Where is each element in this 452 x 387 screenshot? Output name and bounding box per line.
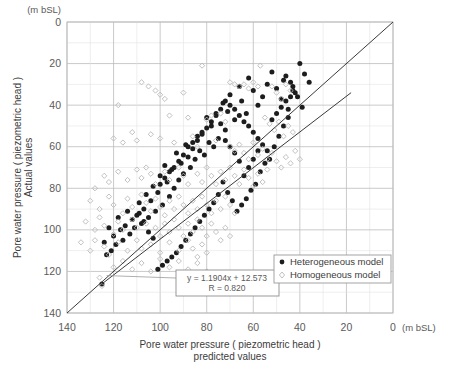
data-point-homogeneous	[246, 175, 251, 180]
data-point-homogeneous	[281, 134, 286, 139]
data-point-homogeneous	[162, 213, 167, 218]
data-point-heterogeneous	[295, 94, 300, 99]
x-axis-title: Pore water pressure ( piezometric head )…	[139, 339, 320, 362]
data-point-heterogeneous	[200, 130, 205, 135]
data-point-homogeneous	[176, 258, 181, 263]
data-point-heterogeneous	[225, 109, 230, 114]
x-axis-unit: (m bSL)	[402, 322, 436, 333]
data-point-homogeneous	[232, 173, 237, 178]
data-point-homogeneous	[120, 140, 125, 145]
legend-label: Homogeneous model	[290, 269, 380, 280]
y-tick-label: 80	[49, 182, 61, 194]
data-point-homogeneous	[167, 240, 172, 245]
data-point-heterogeneous	[228, 92, 233, 97]
data-point-heterogeneous	[193, 157, 198, 162]
data-point-homogeneous	[139, 175, 144, 180]
data-point-homogeneous	[153, 88, 158, 93]
data-point-homogeneous	[213, 182, 218, 187]
data-point-homogeneous	[144, 200, 149, 205]
data-point-heterogeneous	[237, 113, 242, 118]
data-point-homogeneous	[185, 115, 190, 120]
data-point-heterogeneous	[158, 173, 163, 178]
data-point-homogeneous	[162, 169, 167, 174]
legend: Heterogeneous modelHomogeneous model	[274, 255, 391, 283]
y-tick-label: 60	[49, 140, 61, 152]
data-point-heterogeneous	[162, 163, 167, 168]
data-point-homogeneous	[185, 182, 190, 187]
data-point-homogeneous	[246, 157, 251, 162]
data-point-heterogeneous	[176, 177, 181, 182]
data-point-heterogeneous	[174, 150, 179, 155]
data-point-heterogeneous	[223, 138, 228, 143]
data-point-heterogeneous	[186, 144, 191, 149]
data-point-heterogeneous	[239, 98, 244, 103]
data-point-homogeneous	[125, 196, 130, 201]
data-point-homogeneous	[148, 132, 153, 137]
data-point-heterogeneous	[211, 144, 216, 149]
x-tick-label: 60	[247, 321, 259, 333]
data-point-heterogeneous	[160, 263, 165, 268]
data-point-heterogeneous	[302, 71, 307, 76]
data-point-heterogeneous	[283, 74, 288, 79]
data-point-heterogeneous	[137, 200, 142, 205]
chart-canvas: 140120100806040200(m bSL)020406080100120…	[0, 0, 452, 387]
x-tick-label: 40	[294, 321, 306, 333]
data-point-heterogeneous	[239, 202, 244, 207]
data-point-homogeneous	[195, 261, 200, 266]
legend-marker-heterogeneous	[280, 260, 285, 265]
data-point-heterogeneous	[130, 217, 135, 222]
data-point-homogeneous	[120, 211, 125, 216]
data-point-heterogeneous	[190, 140, 195, 145]
data-point-heterogeneous	[176, 159, 181, 164]
data-point-homogeneous	[209, 173, 214, 178]
y-tick-label: 0	[55, 16, 61, 28]
data-point-heterogeneous	[260, 94, 265, 99]
data-point-homogeneous	[153, 196, 158, 201]
data-point-homogeneous	[262, 115, 267, 120]
data-point-heterogeneous	[223, 98, 228, 103]
data-point-homogeneous	[185, 211, 190, 216]
data-point-homogeneous	[288, 161, 293, 166]
data-point-heterogeneous	[188, 165, 193, 170]
data-point-heterogeneous	[274, 111, 279, 116]
series-homogeneous	[78, 63, 302, 289]
equation-annotation: y = 1.1904x + 12.573R = 0.820	[176, 270, 279, 296]
data-point-homogeneous	[78, 240, 83, 245]
data-point-homogeneous	[92, 238, 97, 243]
data-point-heterogeneous	[172, 186, 177, 191]
x-axis-ticks: 140120100806040200(m bSL)	[58, 321, 436, 333]
data-point-heterogeneous	[223, 128, 228, 133]
data-point-homogeneous	[102, 173, 107, 178]
data-point-heterogeneous	[146, 215, 151, 220]
data-point-heterogeneous	[146, 229, 151, 234]
data-point-heterogeneous	[246, 76, 251, 81]
series-heterogeneous	[99, 61, 311, 286]
data-point-homogeneous	[83, 219, 88, 224]
data-point-homogeneous	[139, 192, 144, 197]
data-point-homogeneous	[190, 134, 195, 139]
data-point-heterogeneous	[255, 103, 260, 108]
data-point-heterogeneous	[288, 94, 293, 99]
data-point-homogeneous	[148, 171, 153, 176]
data-point-heterogeneous	[307, 80, 312, 85]
data-point-homogeneous	[209, 113, 214, 118]
data-point-homogeneous	[130, 130, 135, 135]
data-point-heterogeneous	[204, 126, 209, 131]
x-tick-label: 140	[58, 321, 76, 333]
y-tick-label: 20	[49, 57, 61, 69]
data-point-heterogeneous	[241, 119, 246, 124]
data-point-heterogeneous	[232, 117, 237, 122]
data-point-heterogeneous	[279, 105, 284, 110]
x-tick-label: 80	[201, 321, 213, 333]
x-tick-label: 100	[151, 321, 169, 333]
y-tick-label: 40	[49, 99, 61, 111]
data-point-homogeneous	[199, 194, 204, 199]
data-point-homogeneous	[167, 113, 172, 118]
y-axis-title-line2: Actual values	[23, 138, 34, 197]
y-axis-title: Pore water pressure ( piezometric head )…	[12, 77, 34, 258]
data-point-homogeneous	[195, 254, 200, 259]
data-point-homogeneous	[199, 179, 204, 184]
data-point-homogeneous	[176, 194, 181, 199]
data-point-homogeneous	[199, 242, 204, 247]
data-point-homogeneous	[102, 223, 107, 228]
